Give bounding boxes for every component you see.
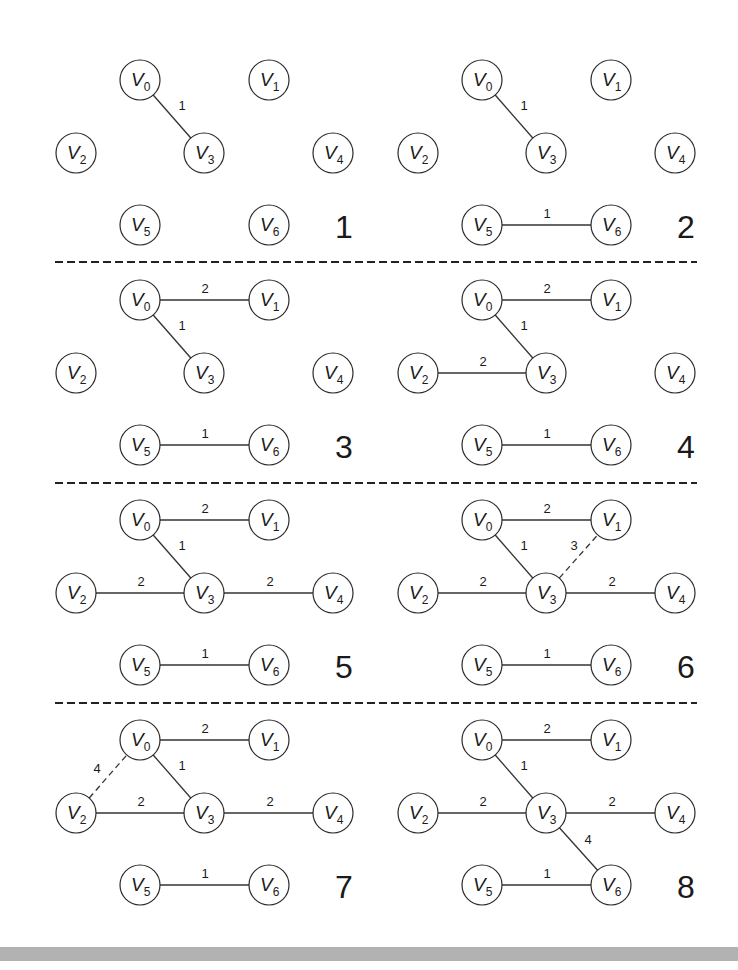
edge-weight-label: 2 [201,501,208,516]
node-v0: V0 [462,60,502,100]
node-v3: V3 [184,133,224,173]
edge-weight-label: 2 [543,281,550,296]
node-v6: V6 [249,425,289,465]
step-number: 5 [335,649,353,685]
node-v0: V0 [462,500,502,540]
node-v2: V2 [398,133,438,173]
edge-weight-label: 2 [266,574,273,589]
node-v4: V4 [655,353,695,393]
node-v3: V3 [526,133,566,173]
edge-weight-label: 1 [520,758,527,773]
step-panel-1: 1V0V1V2V3V4V5V61 [56,60,353,245]
edge-weight-label: 1 [201,646,208,661]
edge-weight-label: 2 [201,721,208,736]
node-v6: V6 [249,205,289,245]
node-v0: V0 [120,280,160,320]
node-v5: V5 [120,865,160,905]
edge-v3-v6 [559,828,597,870]
step-panel-5: 21221V0V1V2V3V4V5V65 [56,500,353,685]
edge-weight-label: 1 [520,98,527,113]
node-v1: V1 [591,720,631,760]
node-v5: V5 [120,425,160,465]
node-v4: V4 [313,573,353,613]
edge-weight-label: 1 [178,318,185,333]
diagram-canvas: 1V0V1V2V3V4V5V6111V0V1V2V3V4V5V62211V0V1… [0,0,738,970]
step-panel-2: 11V0V1V2V3V4V5V62 [398,60,695,245]
step-panel-3: 211V0V1V2V3V4V5V63 [56,280,353,465]
node-v1: V1 [249,500,289,540]
edge-weight-label: 3 [570,538,577,553]
node-v0: V0 [120,720,160,760]
edge-weight-label: 2 [266,794,273,809]
node-v3: V3 [184,353,224,393]
node-v6: V6 [249,865,289,905]
node-v0: V0 [462,280,502,320]
node-v6: V6 [591,205,631,245]
step-panel-4: 2121V0V1V2V3V4V5V64 [398,280,695,465]
node-v6: V6 [591,645,631,685]
step-number: 6 [677,649,695,685]
node-v1: V1 [249,280,289,320]
node-v6: V6 [591,865,631,905]
node-v3: V3 [184,573,224,613]
node-v4: V4 [655,793,695,833]
step-number: 4 [677,429,695,465]
edge-weight-label: 1 [543,206,550,221]
edge-weight-label: 1 [520,318,527,333]
node-v4: V4 [313,793,353,833]
node-v5: V5 [120,205,160,245]
node-v2: V2 [56,133,96,173]
edge-weight-label: 1 [201,866,208,881]
edge-weight-label: 2 [479,354,486,369]
step-number: 1 [335,209,353,245]
node-v0: V0 [462,720,502,760]
node-v4: V4 [655,573,695,613]
edge-weight-label: 1 [543,866,550,881]
edge-v3-v1 [559,535,597,578]
edge-weight-label: 1 [201,426,208,441]
edge-weight-label: 4 [93,761,100,776]
node-v3: V3 [184,793,224,833]
edge-weight-label: 2 [479,794,486,809]
step-panel-6: 213221V0V1V2V3V4V5V66 [398,500,695,685]
edge-weight-label: 1 [543,426,550,441]
node-v2: V2 [398,793,438,833]
edge-weight-label: 1 [520,538,527,553]
node-v6: V6 [249,645,289,685]
edge-weight-label: 2 [608,574,615,589]
bottom-bar [0,947,738,961]
edge-weight-label: 2 [137,574,144,589]
node-v5: V5 [462,425,502,465]
node-v4: V4 [655,133,695,173]
node-v1: V1 [591,60,631,100]
step-panel-7: 214221V0V1V2V3V4V5V67 [56,720,353,905]
edge-weight-label: 2 [608,794,615,809]
node-v5: V5 [462,205,502,245]
node-v4: V4 [313,133,353,173]
node-v6: V6 [591,425,631,465]
node-v1: V1 [591,280,631,320]
edge-weight-label: 2 [201,281,208,296]
node-v3: V3 [526,793,566,833]
step-number: 2 [677,209,695,245]
node-v0: V0 [120,60,160,100]
edge-weight-label: 4 [584,832,591,847]
step-number: 7 [335,869,353,905]
edge-weight-label: 2 [543,721,550,736]
edge-weight-label: 2 [479,574,486,589]
node-v2: V2 [56,793,96,833]
edge-weight-label: 2 [543,501,550,516]
node-v3: V3 [526,353,566,393]
step-number: 3 [335,429,353,465]
node-v1: V1 [591,500,631,540]
node-v5: V5 [462,865,502,905]
step-number: 8 [677,869,695,905]
edge-weight-label: 1 [543,646,550,661]
edge-weight-label: 2 [137,794,144,809]
step-panel-8: 212241V0V1V2V3V4V5V68 [398,720,695,905]
node-v1: V1 [249,60,289,100]
node-v1: V1 [249,720,289,760]
prim-mst-diagram: 1V0V1V2V3V4V5V6111V0V1V2V3V4V5V62211V0V1… [0,0,738,970]
edge-weight-label: 1 [178,98,185,113]
node-v2: V2 [56,353,96,393]
